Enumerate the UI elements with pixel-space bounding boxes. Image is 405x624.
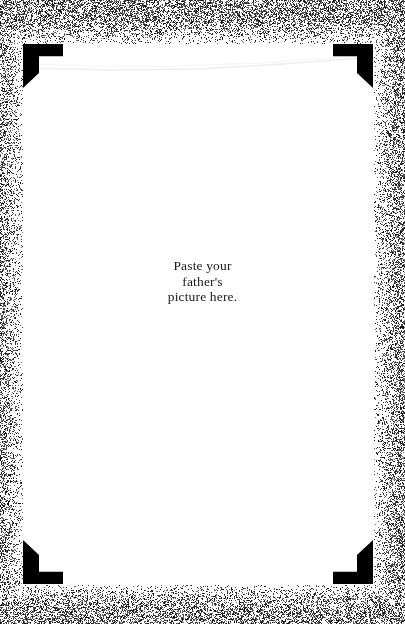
caption-line-1: Paste your <box>0 258 405 274</box>
page-edge-line <box>23 44 373 84</box>
caption-line-3: picture here. <box>0 289 405 305</box>
paste-instruction: Paste your father's picture here. <box>0 258 405 305</box>
photo-page <box>23 44 373 584</box>
scrapbook-photo-page: Paste your father's picture here. <box>0 0 405 624</box>
caption-line-2: father's <box>0 274 405 290</box>
